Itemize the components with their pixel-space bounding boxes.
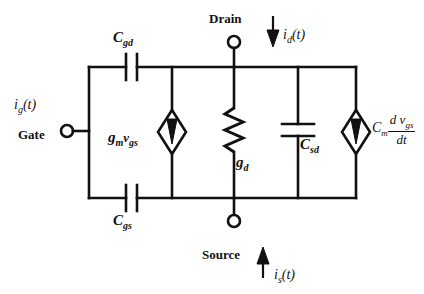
gate-current-label: ig(t) [14, 98, 36, 115]
cgs-label-symbol: C [113, 212, 123, 228]
drain-current-label: id(t) [283, 28, 305, 45]
gd-label-subscript: d [244, 162, 249, 173]
cm-numerator-d: d [390, 112, 397, 127]
cgs-capacitor-symbol [126, 185, 137, 211]
source-terminal-label: Source [202, 248, 240, 261]
source-terminal-node[interactable] [228, 215, 240, 227]
drain-terminal-node[interactable] [228, 36, 240, 48]
source-current-arrow [257, 247, 269, 278]
cm-label-symbol: C [372, 120, 381, 135]
cm-fraction-numerator: d vgs [388, 113, 416, 132]
cm-derivative-fraction: d vgsdt [388, 113, 416, 146]
gm-label-subscript2: gs [129, 137, 138, 148]
source-arrow-head-icon [257, 247, 269, 264]
gd-label-symbol: g [236, 154, 244, 170]
cgs-label-subscript: gs [123, 220, 132, 231]
cm-fraction-denominator: dt [388, 132, 416, 146]
cm-current-source-branch [342, 110, 370, 154]
gate-terminal-node[interactable] [61, 125, 73, 137]
drain-terminal-group [228, 36, 240, 67]
gate-terminal-label: Gate [18, 128, 45, 141]
source-terminal-group [228, 198, 240, 227]
csd-label-symbol: C [300, 136, 310, 152]
gm-label-symbol: g [108, 129, 116, 145]
cm-numerator-sub: gs [405, 120, 413, 130]
cgs-label: Cgs [113, 213, 132, 231]
drain-arrow-head-icon [267, 30, 279, 47]
gd-resistor-symbol[interactable] [225, 108, 243, 152]
cm-source-label: Cmd vgsdt [372, 113, 415, 146]
circuit-diagram-canvas: ig(t) Gate Cgd Cgs gmvgs gd Csd Cmd vgsd… [0, 0, 424, 294]
csd-label: Csd [300, 137, 319, 155]
gm-source-label: gmvgs [108, 130, 138, 148]
source-current-label: is(t) [274, 268, 295, 285]
csd-capacitor-branch [282, 67, 314, 198]
source-current-arg: (t) [282, 267, 295, 282]
gd-resistor-branch [225, 67, 243, 198]
gate-terminal-group [61, 125, 89, 137]
cgd-label: Cgd [113, 30, 133, 48]
drain-terminal-label: Drain [209, 12, 242, 25]
drain-current-arg: (t) [292, 27, 305, 42]
csd-label-subscript: sd [310, 144, 319, 155]
cgd-capacitor-symbol [126, 54, 137, 80]
drain-current-arrow [267, 16, 279, 47]
cgd-label-subscript: gd [123, 37, 133, 48]
cm-label-symbol-group: Cm [372, 121, 388, 138]
gd-label: gd [236, 155, 249, 173]
gate-current-arg: (t) [23, 97, 36, 112]
gm-current-source-branch [158, 67, 186, 198]
cgd-label-symbol: C [113, 29, 123, 45]
